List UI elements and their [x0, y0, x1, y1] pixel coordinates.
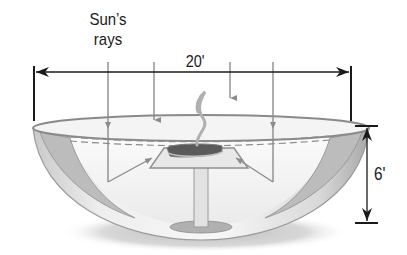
sun-rays-label-line2: rays: [89, 30, 128, 50]
solar-cooker-diagram: Sun’s rays 20' 6': [0, 0, 407, 255]
pedestal-column: [194, 167, 208, 227]
height-label: 6': [374, 164, 385, 185]
sun-rays-label-line1: Sun’s: [89, 10, 128, 30]
sun-rays-label: Sun’s rays: [89, 10, 128, 50]
width-label: 20': [186, 52, 205, 72]
